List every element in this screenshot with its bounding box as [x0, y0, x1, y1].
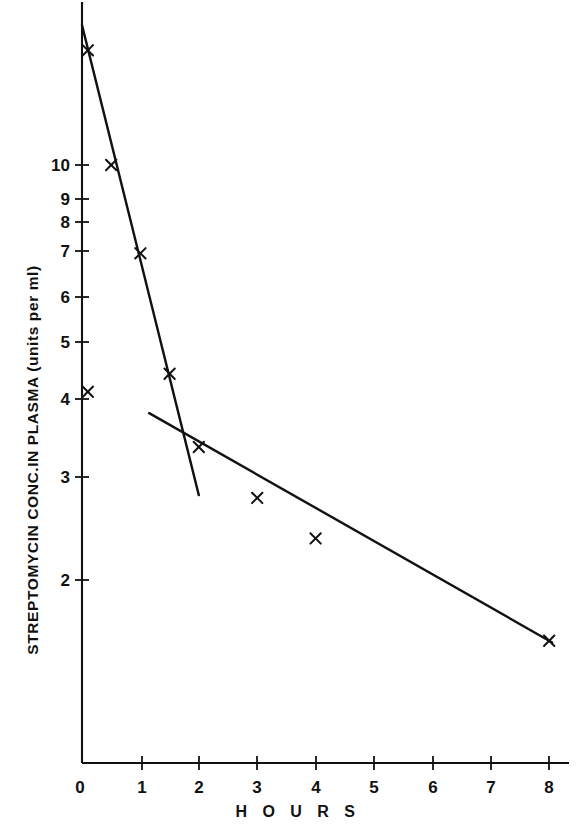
y-tick-label-8: 8	[61, 213, 70, 232]
y-tick-label-7: 7	[61, 242, 70, 261]
y-tick-label-2: 2	[61, 571, 70, 590]
series-1-fit-line	[149, 413, 552, 642]
x-tick-label-5: 5	[369, 778, 378, 797]
y-axis-title: STREPTOMYCIN CONC.IN PLASMA (units per m…	[24, 265, 41, 654]
x-tick-label-7: 7	[486, 778, 495, 797]
data-point-marker	[310, 533, 320, 543]
y-tick-label-3: 3	[61, 468, 70, 487]
y-tick-label-10: 10	[51, 156, 70, 175]
y-tick-label-9: 9	[61, 190, 70, 209]
data-point-marker	[83, 387, 93, 397]
data-point-marker	[106, 160, 116, 170]
x-tick-label-8: 8	[544, 778, 553, 797]
axis-lines	[82, 2, 569, 763]
chart-plot-area: 10 9 8 7 6 5 4 3 2 0 1 2 3 4	[0, 0, 579, 825]
x-tick-label-6: 6	[428, 778, 437, 797]
data-point-marker	[252, 493, 262, 503]
series-1	[83, 387, 555, 646]
x-tick-label-1: 1	[137, 778, 146, 797]
y-tick-label-5: 5	[61, 333, 70, 352]
y-tick-label-6: 6	[61, 288, 70, 307]
data-series-layer	[82, 25, 554, 646]
x-tick-label-2: 2	[194, 778, 203, 797]
x-tick-label-0: 0	[75, 778, 84, 797]
series-0-fit-line	[82, 25, 199, 495]
x-axis-title: H O U R S	[235, 803, 360, 820]
y-axis-tick-labels: 10 9 8 7 6 5 4 3 2	[51, 156, 70, 590]
y-tick-label-4: 4	[61, 390, 71, 409]
series-0	[82, 25, 199, 495]
x-tick-label-4: 4	[311, 778, 321, 797]
x-axis-tick-labels: 0 1 2 3 4 5 6 7 8	[75, 778, 553, 797]
chart-figure: 10 9 8 7 6 5 4 3 2 0 1 2 3 4	[0, 0, 579, 825]
data-point-marker	[544, 636, 554, 646]
data-point-marker	[194, 442, 204, 452]
x-tick-label-3: 3	[252, 778, 261, 797]
